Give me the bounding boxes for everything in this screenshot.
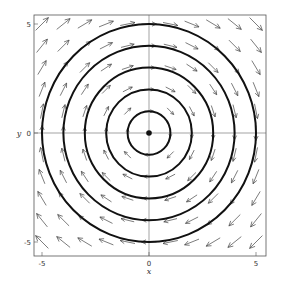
x-tick-label: 5 xyxy=(254,260,258,268)
vector-arrow xyxy=(81,171,88,182)
vector-arrow xyxy=(60,83,66,96)
vector-arrow xyxy=(101,64,112,71)
vector-arrow xyxy=(186,43,199,49)
vector-arrow xyxy=(60,170,66,183)
y-tick-label: 0 xyxy=(27,130,31,138)
vector-arrow xyxy=(167,152,174,159)
vector-arrow xyxy=(78,238,92,246)
vector-arrow xyxy=(253,169,259,183)
vector-arrow xyxy=(210,171,217,182)
y-tick-label: -5 xyxy=(24,239,31,247)
vector-arrow xyxy=(251,39,262,52)
vector-arrow xyxy=(186,217,199,223)
vector-arrow xyxy=(100,217,113,223)
vector-arrow xyxy=(166,87,175,92)
vector-arrow xyxy=(123,174,132,179)
axis-ticks: -505-505 xyxy=(24,21,258,269)
vector-arrow xyxy=(231,170,237,183)
vector-arrow xyxy=(185,21,199,27)
vector-arrow xyxy=(81,84,88,95)
y-axis-label: y xyxy=(16,129,22,138)
vector-arrow xyxy=(251,214,262,227)
vector-arrow xyxy=(185,239,199,245)
origin-point xyxy=(146,130,152,136)
vector-arrow xyxy=(166,174,175,179)
vector-arrow xyxy=(252,191,260,205)
vector-arrow xyxy=(228,19,241,30)
vector-arrow xyxy=(104,150,109,159)
vector-arrow xyxy=(252,61,260,75)
vector-arrow xyxy=(38,191,46,205)
vector-arrow xyxy=(57,19,70,30)
vector-arrow xyxy=(229,215,240,226)
vector-arrow xyxy=(123,87,132,92)
vector-arrow xyxy=(231,83,237,96)
vector-arrow xyxy=(124,108,131,115)
x-tick-label: -5 xyxy=(39,260,46,268)
vector-arrow xyxy=(37,214,48,227)
vector-arrow xyxy=(124,152,131,159)
vector-arrow xyxy=(189,150,194,159)
vector-arrow xyxy=(78,20,92,28)
vector-arrow xyxy=(100,43,113,49)
vector-field-chart: -505-505 x y xyxy=(0,0,284,288)
vector-arrow xyxy=(104,107,109,116)
vector-arrow xyxy=(58,40,69,51)
vector-arrow xyxy=(167,108,174,115)
vector-arrow xyxy=(99,239,113,245)
vector-arrow xyxy=(187,195,198,202)
vector-arrow xyxy=(39,82,45,96)
vector-arrow xyxy=(253,82,259,96)
vector-arrow xyxy=(57,237,70,248)
y-tick-label: 5 xyxy=(27,21,31,29)
vector-arrow xyxy=(228,237,241,248)
vector-arrow xyxy=(210,84,217,95)
vector-arrow xyxy=(250,18,263,31)
vector-arrow xyxy=(206,20,220,28)
vector-arrow xyxy=(189,107,194,116)
vector-arrow xyxy=(37,39,48,52)
vector-arrow xyxy=(250,236,263,249)
x-axis-label: x xyxy=(147,267,152,276)
vector-arrow xyxy=(101,195,112,202)
vector-arrow xyxy=(39,169,45,183)
vector-arrow xyxy=(38,61,46,75)
vector-arrow xyxy=(99,21,113,27)
vector-arrow xyxy=(206,238,220,246)
vector-arrow xyxy=(58,215,69,226)
vector-arrow xyxy=(187,64,198,71)
vector-arrow xyxy=(229,40,240,51)
